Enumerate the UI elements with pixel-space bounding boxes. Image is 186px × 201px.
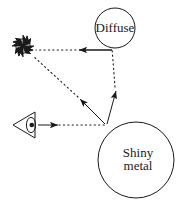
- diffuse-sphere-label: Diffuse: [0, 21, 186, 34]
- sun-icon: [12, 35, 34, 57]
- shiny-metal-label-line2: metal: [45, 159, 186, 172]
- light-transport-diagram: Diffuse Shiny metal: [0, 0, 186, 201]
- eye-icon: [13, 112, 36, 138]
- shiny-metal-label-line1: Shiny: [45, 146, 186, 159]
- ray-metal-to-diffuse: [107, 48, 116, 124]
- diffuse-sphere-label-text: Diffuse: [96, 20, 135, 35]
- shiny-metal-sphere-label: Shiny metal: [0, 146, 186, 172]
- ray-metal-to-light: [33, 56, 105, 124]
